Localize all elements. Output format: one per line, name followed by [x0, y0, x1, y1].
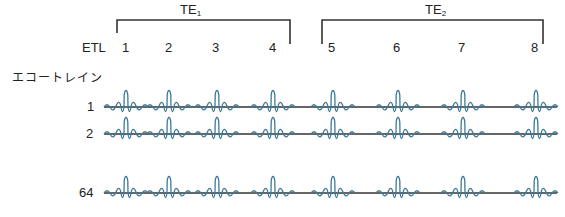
echo-number: 5: [328, 41, 335, 54]
echo-row-2: [104, 118, 558, 139]
echo-row-1: [104, 91, 558, 112]
etl-label: ETL: [82, 41, 106, 54]
bracket-te2: [322, 20, 543, 44]
echo-number: 7: [458, 41, 465, 54]
echo-number: 4: [269, 41, 276, 54]
echo-number: 1: [122, 41, 129, 54]
echo-train-label: エコートレイン: [12, 68, 103, 85]
echo-row-64: [104, 177, 558, 198]
echo-number: 6: [393, 41, 400, 54]
echo-number: 2: [165, 41, 172, 54]
bracket-te1: [117, 20, 290, 44]
row-label: 2: [86, 127, 93, 140]
echo-number: 8: [531, 41, 538, 54]
row-label: 64: [79, 186, 93, 199]
echo-number: 3: [212, 41, 219, 54]
row-label: 1: [87, 100, 94, 113]
